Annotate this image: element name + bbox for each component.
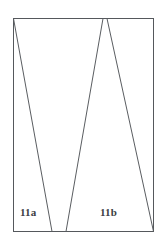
figure-container: 11a 11b: [0, 0, 166, 247]
region-label-11a: 11a: [20, 206, 37, 218]
figure-drawing: 11a 11b: [0, 0, 166, 247]
figure-frame-rect: [14, 19, 154, 232]
region-label-11b: 11b: [100, 206, 117, 218]
